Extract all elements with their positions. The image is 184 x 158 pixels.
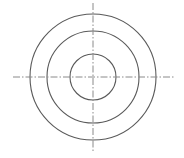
concentric-circles-diagram <box>0 0 184 158</box>
